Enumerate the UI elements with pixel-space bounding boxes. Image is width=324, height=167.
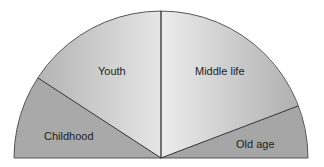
label-childhood: Childhood <box>44 130 94 142</box>
label-old-age: Old age <box>236 138 275 150</box>
label-youth: Youth <box>98 65 126 77</box>
label-middle-life: Middle life <box>195 65 245 77</box>
life-stages-semicircle-diagram: Youth Middle life Childhood Old age <box>0 0 324 167</box>
